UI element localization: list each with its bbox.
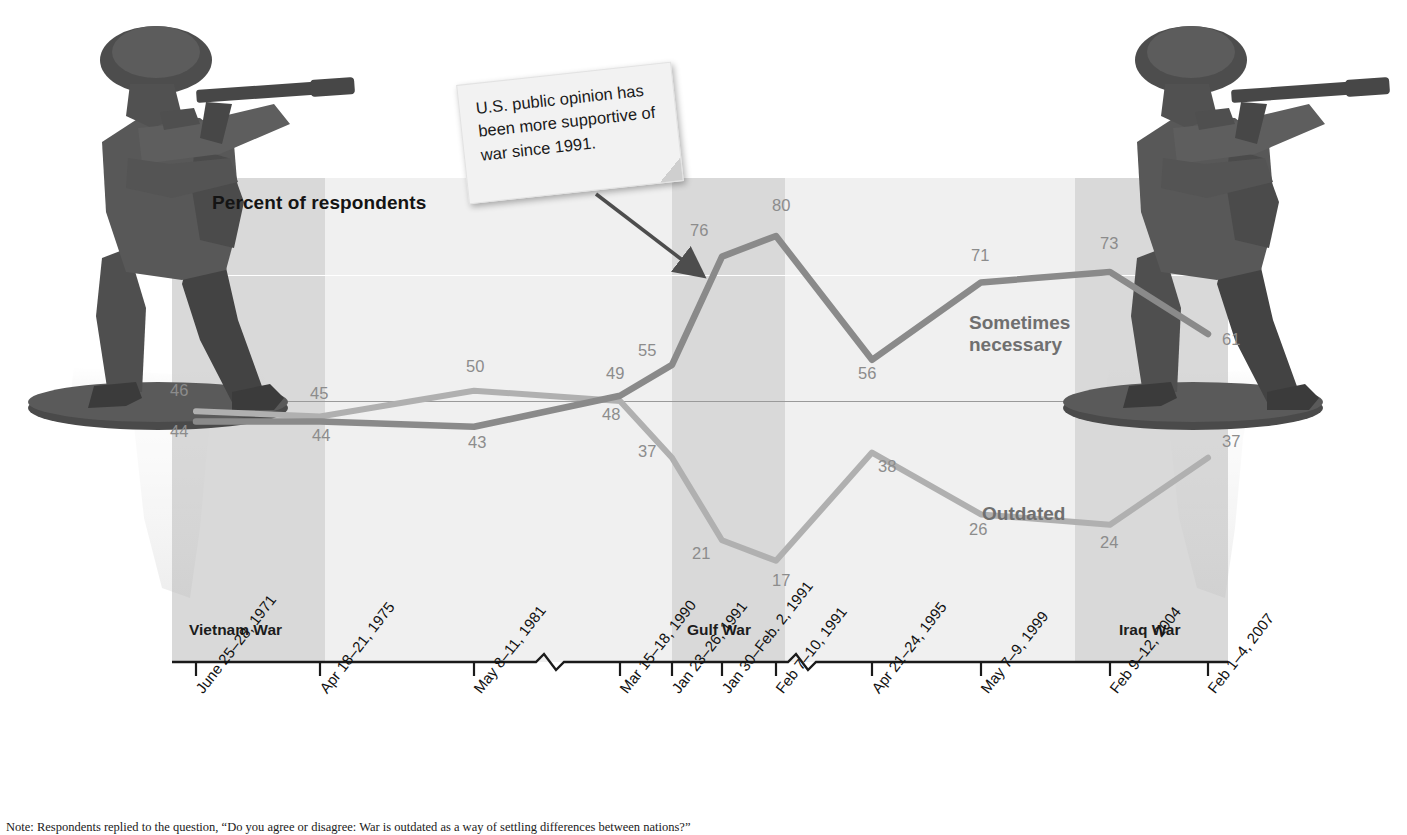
value-label-sometimes-8: 71 bbox=[971, 246, 989, 265]
value-label-sometimes-6: 80 bbox=[772, 196, 790, 215]
value-label-sometimes-2: 43 bbox=[468, 433, 486, 452]
value-label-outdated-0: 46 bbox=[170, 381, 188, 400]
value-label-outdated-8: 26 bbox=[969, 520, 987, 539]
value-label-outdated-4: 37 bbox=[638, 442, 656, 461]
value-label-sometimes-10: 61 bbox=[1222, 330, 1240, 349]
value-label-outdated-5: 21 bbox=[692, 544, 710, 563]
page-title: Percent of respondents bbox=[212, 192, 426, 214]
callout-annotation-text: U.S. public opinion has been more suppor… bbox=[475, 77, 669, 167]
series-label-sometimes-line1: Sometimes bbox=[969, 312, 1070, 334]
value-label-sometimes-5: 76 bbox=[690, 221, 708, 240]
callout-arrow bbox=[590, 190, 730, 290]
value-label-sometimes-0: 44 bbox=[170, 422, 188, 441]
value-label-sometimes-3: 49 bbox=[606, 364, 624, 383]
value-label-outdated-3: 48 bbox=[602, 405, 620, 424]
series-label-sometimes-line2: necessary bbox=[969, 334, 1070, 356]
callout-annotation: U.S. public opinion has been more suppor… bbox=[456, 62, 684, 205]
value-label-outdated-7: 38 bbox=[878, 457, 896, 476]
value-label-sometimes-4: 55 bbox=[638, 341, 656, 360]
value-label-outdated-9: 24 bbox=[1100, 533, 1118, 552]
value-label-outdated-2: 50 bbox=[466, 357, 484, 376]
value-label-outdated-6: 17 bbox=[772, 571, 790, 590]
value-label-sometimes-1: 44 bbox=[312, 426, 330, 445]
callout-fold-corner bbox=[658, 158, 682, 182]
series-label-outdated: Outdated bbox=[982, 503, 1065, 525]
value-label-sometimes-9: 73 bbox=[1100, 234, 1118, 253]
value-label-outdated-10: 37 bbox=[1222, 432, 1240, 451]
line-series-outdated bbox=[196, 391, 1208, 561]
chart-footnote: Note: Respondents replied to the questio… bbox=[6, 820, 690, 835]
series-label-sometimes-necessary: Sometimes necessary bbox=[969, 312, 1070, 357]
value-label-sometimes-7: 56 bbox=[858, 364, 876, 383]
value-label-outdated-1: 45 bbox=[310, 384, 328, 403]
